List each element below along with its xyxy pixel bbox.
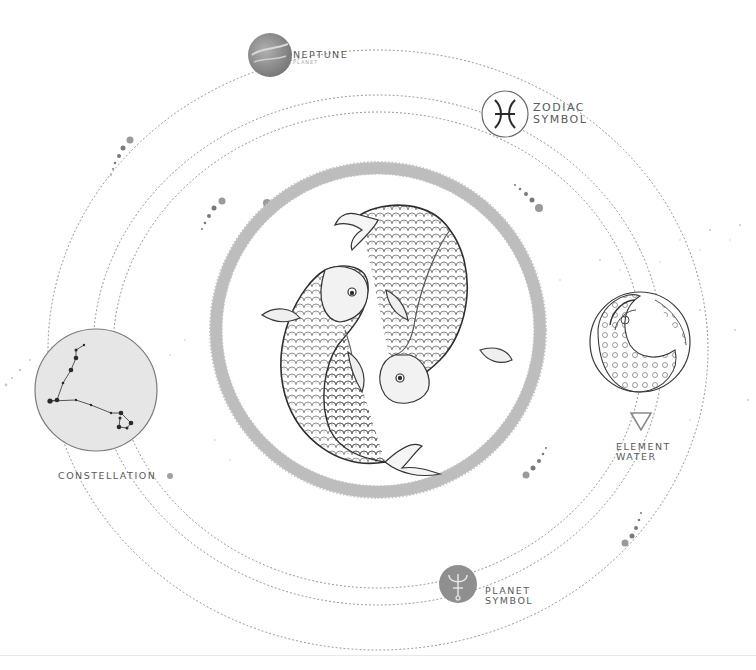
zodiac-line2: SYMBOL [533,114,587,126]
element-line2: WATER [616,452,671,462]
neptune-planet-icon [248,33,292,77]
zodiac-symbol-label: ZODIAC SYMBOL [533,102,587,125]
bottom-divider [0,655,756,656]
neptune-symbol-icon [439,565,477,603]
planet-symbol-line2: SYMBOL [485,596,533,606]
water-element-icon [631,413,651,430]
zodiac-line1: ZODIAC [533,102,587,114]
neptune-label: NEPTUNE PLANET [293,50,348,65]
neptune-subtitle: PLANET [293,60,348,65]
pisces-zodiac-icon [482,91,528,137]
constellation-label: CONSTELLATION [58,471,156,481]
pisces-constellation-icon [35,329,157,451]
wave-sphere-icon [590,292,690,392]
constellation-title: CONSTELLATION [58,470,156,481]
planet-symbol-label: PLANET SYMBOL [485,586,533,606]
pisces-zodiac-infographic: NEPTUNE PLANET ZODIAC SYMBOL CONSTELLATI… [0,0,756,670]
orbit-diagram [0,0,756,670]
element-water-label: ELEMENT WATER [616,442,671,462]
